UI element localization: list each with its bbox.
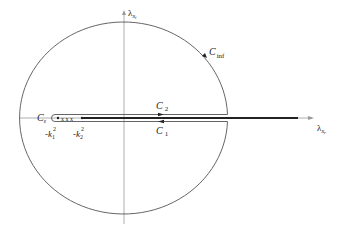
k1-label: -k21 (45, 126, 56, 140)
c-eps-label: Cε (37, 112, 47, 124)
c-inf-label: Cinf (209, 46, 225, 60)
real-axis-label: λxr (317, 123, 326, 135)
real-axis-arrow-icon (308, 116, 314, 120)
k2-label: -k22 (73, 126, 84, 140)
contour-diagram: x x x λxi λxr Cinf C2 C1 Cε -k21 (0, 0, 351, 234)
poles-marker: x x x (61, 116, 73, 122)
c2-label: C2 (156, 100, 169, 113)
c1-direction-arrow-icon (158, 120, 164, 124)
point-k1 (57, 117, 59, 119)
imaginary-axis-label: λxi (128, 8, 137, 20)
point-k2 (81, 117, 83, 119)
c1-label: C1 (156, 125, 169, 138)
imaginary-axis-arrow-icon (122, 10, 126, 15)
c2-direction-arrow-icon (158, 113, 164, 117)
